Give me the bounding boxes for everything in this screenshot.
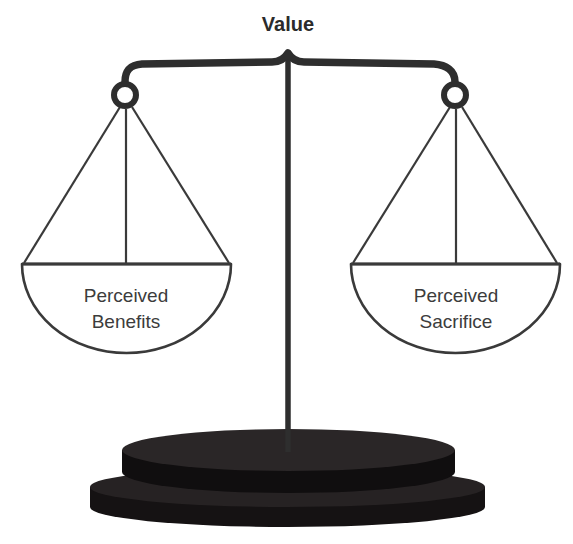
diagram-title: Value: [262, 13, 314, 35]
right-pan-string-right: [462, 107, 557, 263]
balance-scale-illustration: Value: [0, 0, 573, 544]
left-pan-string-left: [24, 107, 120, 263]
right-pan-label-line2: Sacrifice: [420, 311, 493, 332]
left-pan-label-line1: Perceived: [84, 285, 169, 306]
left-pan-string-right: [132, 107, 229, 263]
left-pan-label-line2: Benefits: [92, 311, 161, 332]
right-pan-assembly: Perceived Sacrifice: [351, 84, 560, 353]
right-pan-label-line1: Perceived: [414, 285, 499, 306]
left-pan-assembly: Perceived Benefits: [22, 84, 231, 353]
balance-scale-diagram: Value: [0, 0, 573, 544]
right-pan-ring: [444, 84, 466, 106]
left-pan-bowl: [22, 264, 231, 353]
right-pan-string-left: [353, 107, 450, 263]
left-pan-ring: [114, 84, 136, 106]
right-pan-bowl: [351, 264, 560, 353]
